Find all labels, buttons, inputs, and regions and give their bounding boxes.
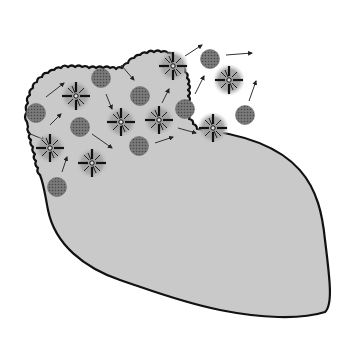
dotted-cell (201, 50, 220, 69)
migration-arrow-icon (185, 45, 202, 56)
dotted-cell (48, 178, 67, 197)
starburst-cell (60, 80, 92, 112)
diagram-canvas (0, 0, 348, 341)
dotted-cell (71, 118, 90, 137)
dotted-cell (27, 104, 46, 123)
migration-arrow-icon (195, 76, 204, 94)
starburst-cell (157, 50, 189, 82)
dotted-cell (130, 137, 149, 156)
tissue-diagram (0, 0, 348, 341)
migration-arrow-icon (249, 81, 256, 101)
starburst-cell (197, 112, 229, 144)
starburst-cell (143, 104, 175, 136)
dotted-cell (92, 69, 111, 88)
starburst-cell (34, 132, 66, 164)
starburst-cell (213, 64, 245, 96)
dotted-cell (131, 87, 150, 106)
dotted-cell (176, 100, 195, 119)
starburst-cell (76, 147, 108, 179)
starburst-cell (105, 106, 137, 138)
dotted-cell (236, 106, 255, 125)
migration-arrow-icon (226, 53, 252, 55)
